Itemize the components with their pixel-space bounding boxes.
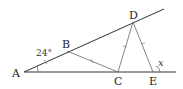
angle-arc-a [37, 66, 38, 72]
label-d: D [129, 9, 138, 22]
geometry-diagram: A B C D E 24° x [0, 0, 183, 89]
segment-cd [118, 22, 133, 72]
unknown-angle-x: x [158, 57, 164, 68]
label-b: B [62, 38, 70, 51]
label-c: C [114, 75, 122, 88]
label-a: A [11, 67, 21, 80]
label-e: E [149, 75, 157, 88]
angle-label-24: 24° [36, 48, 52, 58]
segment-de [133, 22, 153, 72]
tick-cd [123, 46, 127, 47]
